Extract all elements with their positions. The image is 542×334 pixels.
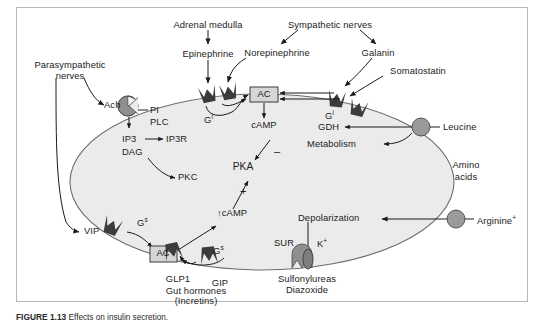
transporter-icon-arginine <box>447 210 465 228</box>
label-leucine: Leucine <box>443 122 477 133</box>
label-sur: SUR <box>274 238 294 249</box>
label-up-camp: ↑cAMP <box>217 208 247 219</box>
label-sulfonylureas: Sulfonylureas <box>278 274 336 285</box>
label-plc: PLC <box>150 117 169 128</box>
label-depolarization: Depolarization <box>298 213 359 224</box>
label-incretins: (Incretins) <box>175 296 218 307</box>
label-parasympathetic-line2: nerves <box>56 71 85 82</box>
arrow-parasympathetic-to-vip <box>66 222 79 232</box>
label-galanin: Galanin <box>362 48 395 59</box>
label-amino-line1: Amino <box>452 160 479 171</box>
label-camp: cAMP <box>251 120 276 131</box>
label-glp1: GLP1 <box>166 274 190 285</box>
label-ac-bottom: AC <box>156 248 169 259</box>
label-amino-line2: acids <box>455 172 477 183</box>
label-ip3r: IP3R <box>166 134 187 145</box>
label-pi: PI <box>150 105 159 116</box>
label-ach: Ach <box>104 100 120 111</box>
label-gs-left: Gs <box>137 215 148 229</box>
label-parasympathetic-line1: Parasympathetic <box>34 60 105 71</box>
label-potassium: K+ <box>317 236 327 250</box>
label-ac-top: AC <box>257 89 270 100</box>
ach-receptor-icon <box>118 96 138 116</box>
arrow-parasympathetic-to-ach <box>84 78 104 105</box>
label-diazoxide: Diazoxide <box>286 285 328 296</box>
label-pka: PKA <box>233 162 254 173</box>
label-somatostatin: Somatostatin <box>390 66 446 77</box>
label-gs-right: Gs <box>213 243 224 257</box>
label-metabolism: Metabolism <box>307 139 356 150</box>
label-pkc: PKC <box>178 172 198 183</box>
parasympathetic-trunk <box>56 78 66 222</box>
label-dag: DAG <box>122 147 143 158</box>
channel-icon-potassium <box>303 249 313 269</box>
label-sympathetic-nerves: Sympathetic nerves <box>288 20 372 31</box>
label-epinephrine: Epinephrine <box>182 49 233 60</box>
label-minus-sign: – <box>274 146 280 157</box>
label-norepinephrine: Norepinephrine <box>244 48 309 59</box>
arrow-sympathetic-to-galanin <box>360 30 376 44</box>
arrow-galanin-to-receptor <box>345 58 372 86</box>
figure-caption: FIGURE 1.13 Effects on insulin secretion… <box>16 312 528 323</box>
label-vip: VIP <box>84 226 99 237</box>
label-gi-right: Gi <box>325 108 334 122</box>
label-gdh: GDH <box>318 122 339 133</box>
transporter-icon-leucine <box>412 118 430 136</box>
label-adrenal-medulla: Adrenal medulla <box>173 20 242 31</box>
arrow-norepinephrine-to-receptor <box>228 58 246 82</box>
figure-root: Adrenal medulla Epinephrine Sympathetic … <box>0 0 542 334</box>
figure-caption-text: Effects on insulin secretion. <box>69 313 169 322</box>
label-ip3: IP3 <box>122 134 136 145</box>
label-arginine: Arginine+ <box>477 213 516 227</box>
arrow-sympathetic-to-norepinephrine <box>281 30 298 44</box>
label-gi-left: Gi <box>204 112 213 126</box>
label-plus-sign: + <box>240 186 247 197</box>
arrow-somatostatin-to-receptor <box>350 76 383 96</box>
figure-number: FIGURE 1.13 <box>16 312 66 322</box>
